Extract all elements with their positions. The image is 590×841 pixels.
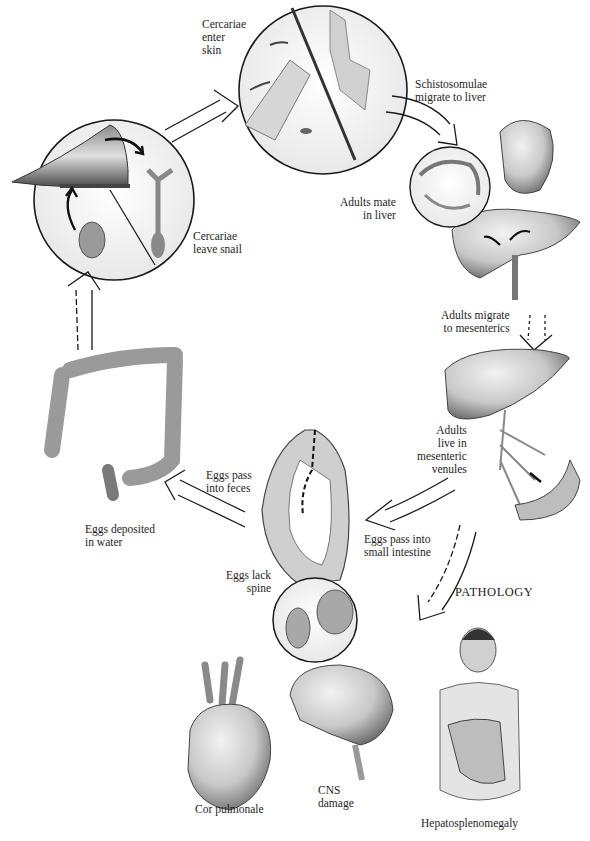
arrow-snail-to-skin <box>165 90 238 142</box>
label-hepatosplenomegaly: Hepatosplenomegaly <box>421 817 518 830</box>
arrow-to-mesenterics <box>520 315 552 350</box>
pathology-heading: PATHOLOGY <box>455 586 533 599</box>
label-eggs-deposited-water: Eggs deposited in water <box>85 523 155 549</box>
skin-penetration-circle <box>239 6 407 174</box>
label-adults-mate-liver: Adults mate in liver <box>340 196 396 222</box>
colon-figure <box>52 355 175 495</box>
liver-heart-figure <box>410 120 580 300</box>
small-intestine-loop <box>262 430 357 662</box>
label-cercariae-enter-skin: Cercariae enter skin <box>202 18 246 57</box>
label-cns-damage: CNS damage <box>318 784 354 810</box>
label-cercariae-leave-snail: Cercariae leave snail <box>193 230 242 256</box>
label-cor-pulmonale: Cor pulmonale <box>195 803 264 816</box>
label-eggs-lack-spine: Eggs lack spine <box>226 569 271 595</box>
label-adults-migrate-mesenterics: Adults migrate to mesenterics <box>441 309 510 335</box>
arrow-to-snail <box>68 272 100 350</box>
arrow-to-small-intestine <box>366 478 455 530</box>
heart-figure <box>188 660 271 810</box>
label-adults-live-venules: Adults live in mesenteric venules <box>417 424 467 476</box>
brain-figure <box>290 665 393 780</box>
life-cycle-illustration <box>0 0 590 841</box>
patient-figure <box>440 628 520 800</box>
snail-circle <box>12 120 194 280</box>
label-eggs-small-intestine: Eggs pass into small intestine <box>364 533 431 559</box>
label-eggs-into-feces: Eggs pass into feces <box>206 469 252 495</box>
label-schistosomulae-migrate: Schistosomulae migrate to liver <box>415 78 487 104</box>
